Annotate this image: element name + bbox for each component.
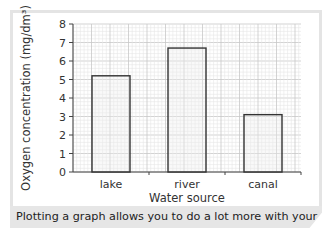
bar-chart: 012345678lakerivercanalWater sourceOxyge… [0, 0, 328, 232]
y-tick-label: 7 [59, 37, 66, 50]
bar-river [168, 48, 206, 172]
y-tick-label: 6 [59, 55, 66, 68]
x-tick-label: canal [248, 178, 278, 191]
bar-canal [244, 115, 282, 172]
y-tick-label: 1 [59, 148, 66, 161]
y-axis-title: Oxygen concentration (mg/dm³) [19, 5, 33, 191]
y-tick-label: 8 [59, 18, 66, 31]
y-tick-label: 0 [59, 166, 66, 179]
y-tick-label: 4 [59, 92, 66, 105]
x-axis-title: Water source [149, 191, 225, 205]
x-tick-label: river [174, 178, 200, 191]
figure-caption: Plotting a graph allows you to do a lot … [10, 206, 322, 228]
y-tick-label: 3 [59, 111, 66, 124]
y-tick-label: 2 [59, 129, 66, 142]
x-tick-label: lake [100, 178, 123, 191]
bar-lake [92, 76, 130, 172]
y-tick-label: 5 [59, 74, 66, 87]
